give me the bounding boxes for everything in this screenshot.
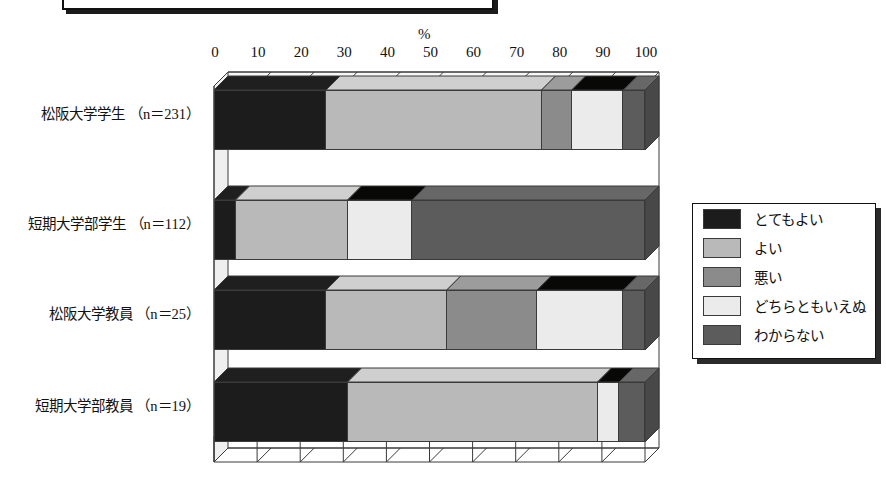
legend-item-5: わからない [703, 320, 875, 349]
x-tick-80: 80 [543, 44, 577, 61]
bar-segment-5 [619, 382, 645, 442]
legend-item-2: よい [703, 233, 875, 262]
legend-item-4: どちらともいえぬ [703, 291, 875, 320]
bar-segment-5 [623, 290, 645, 350]
bar-segment-1 [214, 290, 326, 350]
x-tick-70: 70 [500, 44, 534, 61]
bar-segment-2 [348, 382, 598, 442]
x-tick-10: 10 [241, 44, 275, 61]
bar-segment-1 [214, 382, 348, 442]
legend-swatch-icon [703, 325, 741, 345]
bar-segment-3 [447, 290, 538, 350]
legend-box: とてもよいよい悪いどちらともいえぬわからない [692, 203, 876, 359]
x-tick-0: 0 [198, 44, 232, 61]
legend-label: よい [754, 237, 782, 258]
bar-segment-2 [326, 90, 542, 150]
bar-segment-5 [623, 90, 645, 150]
cropped-title-box [62, 0, 494, 10]
x-tick-90: 90 [586, 44, 620, 61]
bar-segment-2 [326, 290, 447, 350]
legend-swatch-icon [703, 209, 741, 229]
legend-item-3: 悪い [703, 262, 875, 291]
x-tick-30: 30 [327, 44, 361, 61]
category-label-3: 松阪大学教員 （n＝25） [49, 302, 200, 323]
legend-swatch-icon [703, 296, 741, 316]
x-tick-40: 40 [370, 44, 404, 61]
bar-segment-1 [214, 90, 326, 150]
bar-segment-4 [348, 200, 413, 260]
legend-label: とてもよい [754, 208, 823, 229]
x-tick-60: 60 [457, 44, 491, 61]
legend-label: どちらともいえぬ [754, 295, 866, 316]
bar-segment-2 [236, 200, 348, 260]
bar-segment-3 [542, 90, 572, 150]
legend-item-1: とてもよい [703, 204, 875, 233]
x-tick-20: 20 [284, 44, 318, 61]
axis-unit-label: % [418, 26, 431, 43]
category-label-4: 短期大学部教員 （n＝19） [35, 394, 200, 415]
bar-segment-4 [572, 90, 624, 150]
legend-swatch-icon [703, 267, 741, 287]
category-label-1: 松阪大学学生 （n＝231） [41, 102, 200, 123]
legend-label: わからない [754, 324, 824, 345]
x-tick-50: 50 [414, 44, 448, 61]
category-label-2: 短期大学部学生 （n＝112） [28, 212, 200, 233]
bar-segment-4 [537, 290, 623, 350]
chart-canvas: % 0102030405060708090100 松阪大学学生 （n＝231）短… [0, 0, 886, 482]
bar-segment-1 [214, 200, 236, 260]
legend-swatch-icon [703, 238, 741, 258]
legend-label: 悪い [754, 266, 782, 287]
x-tick-100: 100 [629, 44, 663, 61]
bar-segment-4 [598, 382, 620, 442]
bar-segment-5 [412, 200, 645, 260]
